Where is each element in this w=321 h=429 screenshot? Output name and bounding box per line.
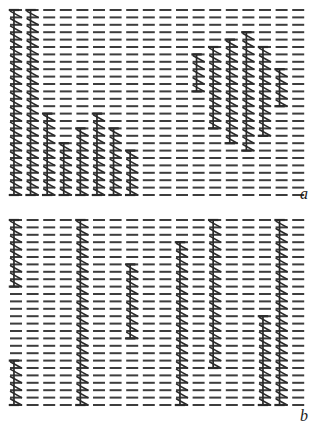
panel-a: a	[0, 0, 321, 214]
errorbar-panel-b-2	[75, 220, 88, 405]
errorbar-panel-a-4	[75, 128, 88, 195]
figure-container: a b	[0, 0, 321, 429]
panel-a-label: a	[300, 186, 308, 202]
dash-raster	[10, 10, 304, 195]
panel-a-plot	[0, 0, 321, 214]
errorbar-panel-b-0	[9, 220, 22, 287]
errorbar-overlays	[9, 220, 287, 405]
errorbar-panel-a-1	[25, 10, 38, 195]
errorbar-panel-a-0	[9, 10, 22, 195]
errorbar-panel-a-8	[191, 54, 204, 91]
errorbar-panel-b-7	[274, 220, 287, 405]
errorbar-panel-a-13	[274, 69, 287, 106]
errorbar-panel-a-6	[108, 128, 121, 195]
panel-b-label: b	[300, 408, 308, 424]
panel-b: b	[0, 214, 321, 429]
errorbar-panel-a-5	[92, 114, 105, 195]
errorbar-panel-a-9	[208, 47, 221, 128]
errorbar-panel-a-2	[42, 114, 55, 195]
errorbar-overlays	[9, 10, 287, 195]
panel-b-plot	[0, 214, 321, 429]
